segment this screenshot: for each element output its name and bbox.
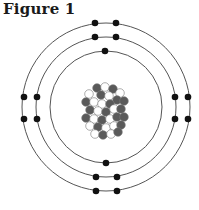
electron <box>113 20 120 27</box>
electron <box>34 116 41 123</box>
electron <box>103 160 110 167</box>
electron <box>92 20 99 27</box>
electrons <box>21 20 192 195</box>
electron <box>172 94 179 101</box>
atom-diagram <box>0 0 199 210</box>
middle-shell <box>36 37 176 177</box>
electron <box>93 188 100 195</box>
electron <box>34 94 41 101</box>
nucleus <box>82 83 129 140</box>
electron <box>21 116 28 123</box>
electron <box>172 116 179 123</box>
electron <box>114 188 121 195</box>
electron <box>185 116 192 123</box>
electron <box>93 174 100 181</box>
electron <box>185 94 192 101</box>
electron <box>102 48 109 55</box>
electron <box>114 174 121 181</box>
electron <box>113 34 120 41</box>
electron <box>21 94 28 101</box>
electron <box>92 34 99 41</box>
inner-shell <box>50 51 162 163</box>
